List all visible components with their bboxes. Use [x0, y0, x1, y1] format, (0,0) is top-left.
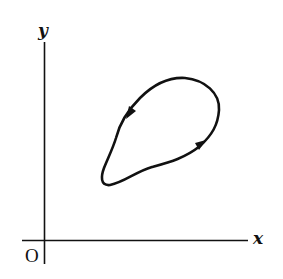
y-axis-label: y: [38, 22, 48, 39]
arrow-head-icon: [126, 106, 136, 119]
diagram-canvas: [0, 0, 283, 279]
origin-label: O: [25, 246, 39, 265]
x-axis-label: x: [253, 230, 263, 247]
closed-curve: [102, 78, 219, 185]
line-integral-figure: y x O: [0, 0, 283, 279]
